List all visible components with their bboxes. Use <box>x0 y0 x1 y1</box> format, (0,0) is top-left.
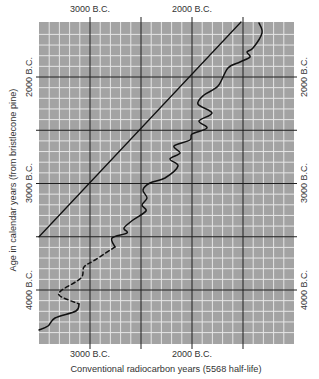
y-axis-title: Age in calendar years (from bristlecone … <box>8 89 18 272</box>
calibration-chart: 3000 B.C. 2000 B.C. 3000 B.C. 2000 B.C. … <box>0 0 319 379</box>
x-axis-title: Conventional radiocarbon years (5568 hal… <box>70 364 261 374</box>
bottom-x-tick-3000: 3000 B.C. <box>70 349 110 359</box>
top-x-tick-3000: 3000 B.C. <box>70 4 110 14</box>
bottom-x-tick-2000: 2000 B.C. <box>172 349 212 359</box>
right-y-tick-2000: 2000 B.C. <box>299 57 309 97</box>
top-x-tick-2000: 2000 B.C. <box>172 4 212 14</box>
right-y-tick-4000: 4000 B.C. <box>299 270 309 310</box>
left-y-tick-2000: 2000 B.C. <box>24 57 34 97</box>
left-y-tick-4000: 4000 B.C. <box>24 270 34 310</box>
left-y-tick-3000: 3000 B.C. <box>24 163 34 203</box>
right-y-tick-3000: 3000 B.C. <box>299 163 309 203</box>
